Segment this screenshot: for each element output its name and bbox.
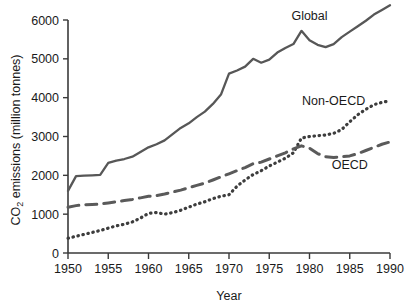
oecd-series-label: OECD [332, 158, 368, 172]
y-axis-title: CO2 emissions (million tonnes) [9, 54, 25, 225]
y-tick-label: 3000 [31, 130, 59, 144]
x-tick-label: 1950 [54, 262, 82, 276]
y-tick-label: 5000 [31, 52, 59, 66]
chart-canvas: 0100020003000400050006000 19501955196019… [0, 0, 418, 306]
x-tick-label: 1970 [215, 262, 243, 276]
x-tick-label: 1990 [376, 262, 404, 276]
y-tick-label: 2000 [31, 169, 59, 183]
series-line-oecd [68, 142, 390, 207]
chart-figure: 0100020003000400050006000 19501955196019… [0, 0, 418, 306]
global-series-label: Global [291, 9, 327, 23]
y-tick-label: 0 [52, 247, 59, 261]
x-axis-tick-labels: 195019551960196519701975198019851990 [54, 262, 404, 276]
y-axis-tick-labels: 0100020003000400050006000 [31, 14, 59, 261]
x-tick-label: 1955 [94, 262, 122, 276]
x-tick-label: 1965 [175, 262, 203, 276]
y-tick-label: 1000 [31, 208, 59, 222]
x-tick-label: 1975 [255, 262, 283, 276]
x-tick-label: 1985 [336, 262, 364, 276]
series-lines [68, 5, 390, 238]
axis-tick-marks [63, 20, 390, 259]
x-axis-title: Year [216, 289, 241, 303]
x-tick-label: 1960 [135, 262, 163, 276]
y-tick-label: 4000 [31, 91, 59, 105]
y-tick-label: 6000 [31, 14, 59, 28]
x-tick-label: 1980 [296, 262, 324, 276]
non-oecd-series-label: Non-OECD [302, 94, 365, 108]
